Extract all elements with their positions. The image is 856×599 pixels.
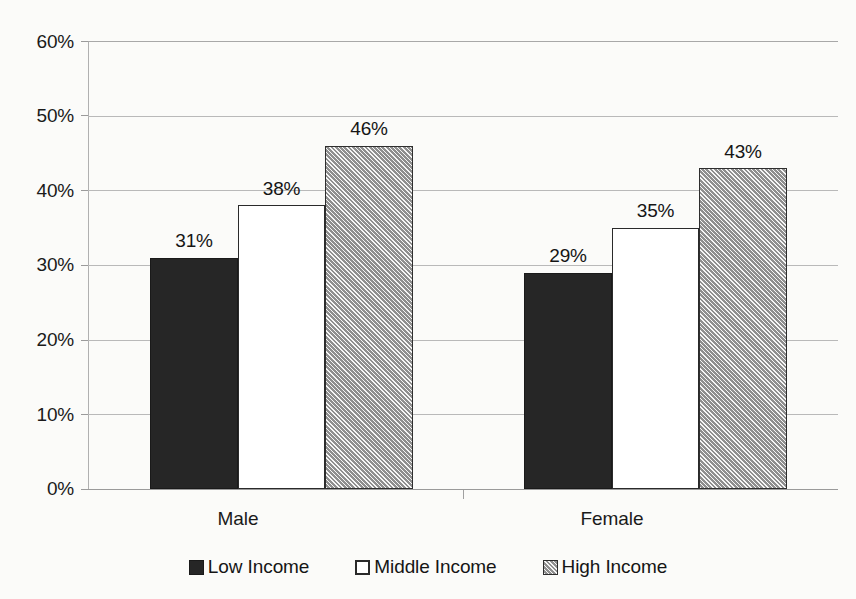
- legend-item-low-income[interactable]: Low Income: [189, 556, 309, 578]
- bar-chart: 60% 50% 40% 30% 20% 10% 0% 31% 38% 46% 2…: [0, 0, 856, 599]
- bar-value-female-high-income: 43%: [699, 141, 787, 163]
- y-tick-40: [81, 190, 88, 191]
- bar-female-low-income[interactable]: [524, 273, 612, 490]
- y-axis-label-0: 0%: [0, 478, 74, 500]
- bar-value-female-middle-income: 35%: [612, 200, 699, 222]
- y-tick-60: [81, 41, 88, 42]
- bar-value-male-low-income: 31%: [150, 230, 238, 252]
- bar-male-high-income[interactable]: [325, 146, 413, 490]
- x-axis-label-female: Female: [524, 508, 700, 530]
- y-tick-50: [81, 115, 88, 116]
- legend-label-high-income: High Income: [562, 556, 668, 578]
- y-axis-label-60: 60%: [0, 31, 74, 53]
- high-income-swatch-icon: [543, 560, 558, 575]
- y-axis-label-10: 10%: [0, 404, 74, 426]
- y-axis-label-20: 20%: [0, 329, 74, 351]
- plot-area: [88, 41, 838, 489]
- legend-item-middle-income[interactable]: Middle Income: [355, 556, 496, 578]
- y-axis-label-30: 30%: [0, 254, 74, 276]
- bar-male-middle-income[interactable]: [238, 205, 325, 489]
- y-tick-20: [81, 340, 88, 341]
- y-tick-30: [81, 265, 88, 266]
- bar-value-male-middle-income: 38%: [238, 178, 325, 200]
- low-income-swatch-icon: [189, 560, 204, 575]
- x-axis-tick-divider: [463, 490, 464, 499]
- bar-value-female-low-income: 29%: [524, 245, 612, 267]
- bar-female-middle-income[interactable]: [612, 228, 699, 489]
- y-axis-label-40: 40%: [0, 180, 74, 202]
- middle-income-swatch-icon: [355, 560, 370, 575]
- legend-label-middle-income: Middle Income: [374, 556, 496, 578]
- legend-label-low-income: Low Income: [208, 556, 309, 578]
- y-tick-0: [81, 489, 88, 490]
- x-axis-label-male: Male: [150, 508, 326, 530]
- y-axis-label-50: 50%: [0, 105, 74, 127]
- gridline-50: [88, 116, 838, 117]
- chart-legend: Low Income Middle Income High Income: [0, 556, 856, 578]
- bar-female-high-income[interactable]: [699, 168, 787, 489]
- bar-value-male-high-income: 46%: [325, 118, 413, 140]
- legend-item-high-income[interactable]: High Income: [543, 556, 668, 578]
- gridline-60: [88, 41, 838, 42]
- y-tick-10: [81, 414, 88, 415]
- bar-male-low-income[interactable]: [150, 258, 238, 490]
